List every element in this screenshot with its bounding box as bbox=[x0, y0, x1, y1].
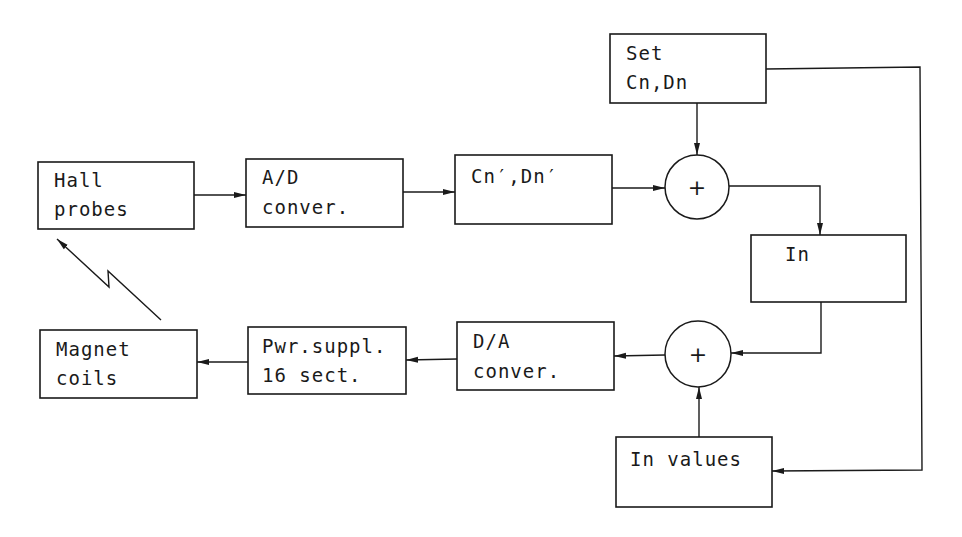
lightning-arrow-field-coupling bbox=[57, 239, 161, 320]
block-label: Set bbox=[626, 42, 663, 64]
block-label: conver. bbox=[262, 196, 349, 218]
block-diagram: Hall probes A/D conver. Cn′,Dn′ Set Cn,D… bbox=[0, 0, 962, 537]
block-cn-dn-prime: Cn′,Dn′ bbox=[455, 155, 612, 224]
block-label: conver. bbox=[473, 360, 560, 382]
summing-junction-upper: + bbox=[665, 155, 729, 219]
block-hall-probes: Hall probes bbox=[38, 162, 194, 229]
block-in-values: In values bbox=[616, 437, 772, 507]
arrow-da-to-pwr bbox=[406, 359, 457, 360]
block-label: Cn′,Dn′ bbox=[471, 165, 558, 187]
arrow-sum-to-in bbox=[729, 186, 820, 235]
block-label: D/A bbox=[473, 330, 510, 352]
block-label: In values bbox=[630, 448, 742, 470]
block-label: Magnet bbox=[56, 338, 131, 360]
block-label: Cn,Dn bbox=[626, 71, 688, 93]
block-label: probes bbox=[54, 198, 129, 220]
block-ad-converter: A/D conver. bbox=[246, 159, 403, 227]
summing-junction-lower: + bbox=[665, 321, 731, 387]
block-label: Hall bbox=[54, 169, 104, 191]
block-label: A/D bbox=[262, 166, 299, 188]
block-in: In bbox=[751, 235, 906, 302]
block-da-converter: D/A conver. bbox=[457, 322, 614, 390]
block-label: In bbox=[785, 243, 810, 265]
plus-icon: + bbox=[688, 175, 706, 200]
plus-icon: + bbox=[689, 342, 707, 367]
block-power-supply: Pwr.suppl. 16 sect. bbox=[248, 327, 406, 394]
arrow-in-to-sum bbox=[731, 302, 821, 353]
block-magnet-coils: Magnet coils bbox=[40, 330, 197, 398]
block-label: coils bbox=[56, 367, 118, 389]
arrow-sum-to-da bbox=[614, 355, 665, 356]
block-label: 16 sect. bbox=[262, 364, 362, 386]
block-label: Pwr.suppl. bbox=[262, 335, 386, 357]
block-set-cn-dn: Set Cn,Dn bbox=[610, 34, 766, 103]
